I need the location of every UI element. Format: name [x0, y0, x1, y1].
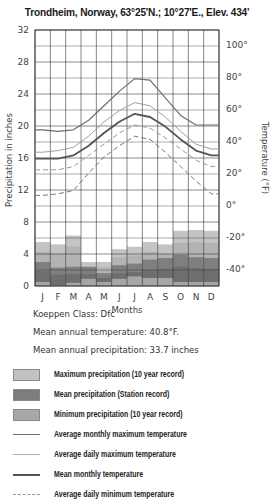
x-tick-label: A: [147, 292, 154, 302]
y-axis-label: Precipitation in inches: [4, 113, 14, 207]
y-tick-label: 20: [18, 121, 30, 131]
y2-tick-label: -20°: [226, 232, 245, 242]
min-precip-bar: [173, 282, 188, 286]
y-tick-label: 28: [18, 57, 30, 67]
mean-temp-line-sample: [13, 474, 40, 476]
x-tick-label: J: [40, 292, 44, 302]
y2-tick-label: 100°: [226, 40, 248, 50]
legend-label: Mean monthly temperature: [54, 469, 143, 479]
x-tick-label: S: [162, 292, 168, 302]
monthly-max-line-sample: [13, 434, 40, 435]
min-precip-bar: [204, 282, 219, 286]
daily-min-line-sample: [13, 494, 40, 495]
legend-item-daily-min-temp: Average daily minimum temperature: [13, 486, 273, 503]
y-tick-label: 12: [18, 185, 29, 195]
koeppen-class: Koeppen Class: Dfc: [33, 309, 115, 319]
y2-axis-label: Temperature (°F): [260, 121, 270, 194]
y2-tick-label: 20°: [226, 168, 242, 178]
min-precip-bar: [188, 282, 203, 286]
legend-label: Minimum precipitation (10 year record): [54, 409, 183, 419]
legend-item-min-precip: Minimum precipitation (10 year record): [13, 406, 273, 426]
y2-tick-label: 80°: [226, 72, 242, 82]
legend-label: Average daily maximum temperature: [54, 449, 176, 459]
y-tick-label: 0: [23, 281, 29, 291]
x-tick-label: A: [86, 292, 93, 302]
mean-precip-band: [50, 275, 65, 286]
mean-annual-precipitation: Mean annual precipitation: 33.7 inches: [33, 345, 199, 355]
x-tick-label: M: [100, 292, 108, 302]
y-tick-label: 4: [23, 249, 29, 259]
daily-max-line-sample: [13, 454, 40, 455]
y-tick-label: 8: [23, 217, 29, 227]
y-tick-label: 32: [18, 25, 29, 35]
legend: Maximum precipitation (10 year record) M…: [13, 366, 273, 503]
mean-precip-swatch: [13, 389, 40, 401]
min-precip-bar: [66, 283, 81, 286]
climograph-chart: 048121620242832100°80°60°40°20°0°-20°-40…: [0, 0, 274, 320]
legend-label: Maximum precipitation (10 year record): [54, 369, 184, 379]
legend-item-max-precip: Maximum precipitation (10 year record): [13, 366, 273, 386]
legend-label: Mean precipitation (Station record): [54, 389, 169, 399]
legend-label: Average monthly maximum temperature: [54, 429, 187, 439]
min-precip-bar: [142, 278, 157, 286]
y2-tick-label: 60°: [226, 104, 242, 114]
legend-item-daily-max-temp: Average daily maximum temperature: [13, 446, 273, 466]
x-tick-label: O: [177, 292, 184, 302]
y2-tick-label: -40°: [226, 264, 245, 274]
y-tick-label: 24: [18, 89, 30, 99]
mean-annual-temperature: Mean annual temperature: 40.8°F.: [33, 327, 179, 337]
y2-tick-label: 40°: [226, 136, 242, 146]
legend-item-mean-temp: Mean monthly temperature: [13, 466, 273, 486]
x-tick-label: J: [117, 292, 121, 302]
x-tick-label: D: [208, 292, 215, 302]
max-precip-swatch: [13, 369, 40, 381]
min-precip-bar: [158, 278, 173, 286]
legend-item-mean-precip: Mean precipitation (Station record): [13, 386, 273, 406]
x-axis-label: Months: [111, 305, 143, 315]
legend-item-monthly-max-temp: Average monthly maximum temperature: [13, 426, 273, 446]
x-tick-label: J: [132, 292, 136, 302]
x-tick-label: N: [193, 292, 200, 302]
min-precip-bar: [81, 279, 96, 286]
x-tick-label: M: [69, 292, 77, 302]
min-precip-swatch: [13, 409, 40, 421]
min-precip-bar: [96, 282, 111, 286]
legend-label: Average daily minimum temperature: [54, 489, 174, 499]
y2-tick-label: 0°: [226, 200, 236, 210]
y-tick-label: 16: [18, 153, 30, 163]
x-tick-label: F: [55, 292, 60, 302]
min-precip-bar: [35, 282, 50, 286]
min-precip-bar: [127, 276, 142, 286]
min-precip-bar: [112, 279, 127, 286]
